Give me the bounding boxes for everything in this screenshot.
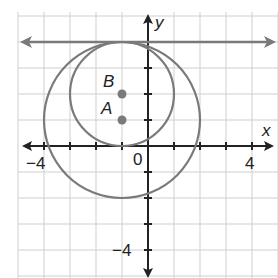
x-tick-label-4: 4 xyxy=(245,154,254,173)
point-a-label: A xyxy=(100,99,112,118)
origin-label: 0 xyxy=(133,150,142,169)
x-axis-label: x xyxy=(261,121,271,140)
y-tick-label-neg4: −4 xyxy=(112,241,131,260)
coordinate-plane: B A y x 0 −4 4 −4 xyxy=(0,0,278,278)
point-b-label: B xyxy=(103,72,114,91)
x-tick-label-neg4: −4 xyxy=(26,154,45,173)
y-axis-label: y xyxy=(154,13,165,32)
point-b xyxy=(118,90,127,99)
point-a xyxy=(118,116,127,125)
